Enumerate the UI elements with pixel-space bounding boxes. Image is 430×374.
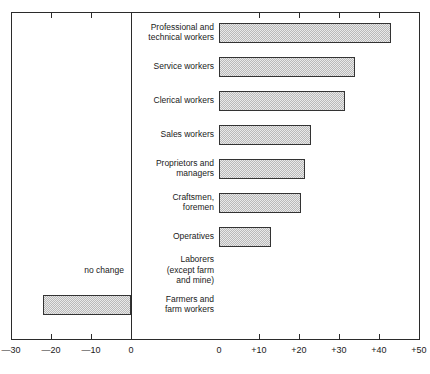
row-label: Laborers(except farmand mine): [133, 254, 218, 286]
row-label-line: Professional and: [133, 22, 214, 33]
bar: [219, 23, 391, 43]
row-label: Proprietors andmanagers: [133, 158, 218, 179]
no-change-annotation: no change: [11, 265, 132, 275]
axis-tick: [259, 334, 260, 340]
axis-tick-label: —20: [34, 345, 68, 355]
row-label-line: (except farm: [133, 265, 214, 276]
row-label: Professional andtechnical workers: [133, 22, 218, 43]
bar: [219, 125, 311, 145]
row-label: Clerical workers: [133, 95, 218, 106]
axis-tick-label: —30: [0, 345, 28, 355]
bar: [219, 193, 301, 213]
axis-tick: [91, 334, 92, 340]
axis-tick: [379, 12, 380, 18]
row-label-line: Operatives: [133, 231, 214, 242]
row-label-line: Proprietors and: [133, 158, 214, 169]
row-label-line: and mine): [133, 275, 214, 286]
plot-panel-negative: [11, 12, 132, 340]
row-label-line: Laborers: [133, 254, 214, 265]
axis-tick: [131, 12, 132, 18]
axis-tick: [339, 12, 340, 18]
row-label: Sales workers: [133, 129, 218, 140]
row-label-line: Sales workers: [133, 129, 214, 140]
row-label-line: foremen: [133, 202, 214, 213]
bar: [219, 91, 345, 111]
axis-tick-label: +30: [322, 345, 356, 355]
row-label-line: farm workers: [133, 304, 214, 315]
axis-tick-label: 0: [114, 345, 148, 355]
bar-chart: Professional andtechnical workersService…: [0, 0, 430, 374]
row-label-line: technical workers: [133, 32, 214, 43]
row-label-line: Farmers and: [133, 294, 214, 305]
row-label: Farmers andfarm workers: [133, 294, 218, 315]
row-label-line: managers: [133, 168, 214, 179]
axis-tick: [131, 334, 132, 340]
row-label: Service workers: [133, 61, 218, 72]
axis-tick: [379, 334, 380, 340]
axis-tick: [51, 12, 52, 18]
axis-tick: [299, 334, 300, 340]
axis-tick-label: +50: [402, 345, 430, 355]
axis-tick: [51, 334, 52, 340]
axis-tick-label: +10: [242, 345, 276, 355]
axis-tick-label: —10: [74, 345, 108, 355]
axis-tick-label: 0: [202, 345, 236, 355]
axis-tick: [259, 12, 260, 18]
row-label-line: Service workers: [133, 61, 214, 72]
bar: [219, 159, 305, 179]
row-label: Craftsmen,foremen: [133, 192, 218, 213]
axis-tick: [299, 12, 300, 18]
axis-tick-label: +20: [282, 345, 316, 355]
axis-tick: [91, 12, 92, 18]
bar: [43, 295, 131, 315]
axis-tick: [339, 334, 340, 340]
row-label-line: Clerical workers: [133, 95, 214, 106]
row-label: Operatives: [133, 231, 218, 242]
bar: [219, 57, 355, 77]
bar: [219, 227, 271, 247]
axis-tick-label: +40: [362, 345, 396, 355]
row-label-line: Craftsmen,: [133, 192, 214, 203]
